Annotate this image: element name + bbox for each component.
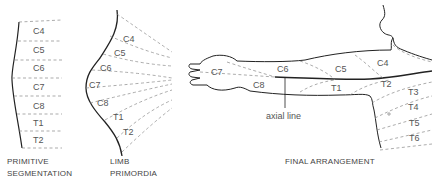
final-arrangement-panel: axial line C7 C6 C5 C4 C8 T1 T2 T3 T4 T5… bbox=[189, 5, 432, 166]
segment-label-t6: T6 bbox=[409, 133, 420, 143]
primitive-segmentation-panel: C4 C5 C6 C7 C8 T1 T2 PRIMITIVE SEGMENTAT… bbox=[7, 20, 72, 178]
segment-label: C5 bbox=[33, 45, 45, 55]
segment-label: T1 bbox=[33, 118, 44, 128]
segment-label: T2 bbox=[123, 127, 134, 137]
segment-label: C5 bbox=[114, 48, 126, 58]
segment-label: C4 bbox=[123, 34, 135, 44]
final-caption: FINAL ARRANGEMENT bbox=[285, 157, 375, 166]
limb-caption-1: LIMB bbox=[110, 157, 129, 166]
segment-label-c4: C4 bbox=[377, 58, 389, 68]
primitive-caption-1: PRIMITIVE bbox=[7, 157, 49, 166]
limb-primordia-panel: C4 C5 C6 C7 C8 T1 T2 LIMB PRIMORDIA bbox=[86, 10, 172, 178]
segment-label: C8 bbox=[33, 101, 45, 111]
segment-label-t3: T3 bbox=[408, 87, 419, 97]
segment-label: T1 bbox=[113, 112, 124, 122]
segment-label-t2: T2 bbox=[381, 79, 392, 89]
axial-line-label: axial line bbox=[266, 111, 301, 121]
segment-label-c5: C5 bbox=[335, 64, 347, 74]
segment-label-c7: C7 bbox=[211, 67, 223, 77]
segment-label: C7 bbox=[89, 80, 101, 90]
segment-label: T2 bbox=[33, 135, 44, 145]
primitive-caption-2: SEGMENTATION bbox=[7, 169, 72, 178]
limb-caption-2: PRIMORDIA bbox=[110, 169, 158, 178]
segment-label: C7 bbox=[33, 82, 45, 92]
segment-label: C4 bbox=[33, 26, 45, 36]
segment-label-t5: T5 bbox=[409, 118, 420, 128]
dermatome-diagram: C4 C5 C6 C7 C8 T1 T2 PRIMITIVE SEGMENTAT… bbox=[0, 0, 435, 184]
segment-label-t4: T4 bbox=[408, 102, 419, 112]
segment-label: C6 bbox=[100, 63, 112, 73]
segment-label: C8 bbox=[97, 98, 109, 108]
segment-label-t1: T1 bbox=[331, 83, 342, 93]
segment-label: C6 bbox=[33, 63, 45, 73]
segment-label-c8: C8 bbox=[253, 80, 265, 90]
segment-label-c6: C6 bbox=[277, 64, 289, 74]
